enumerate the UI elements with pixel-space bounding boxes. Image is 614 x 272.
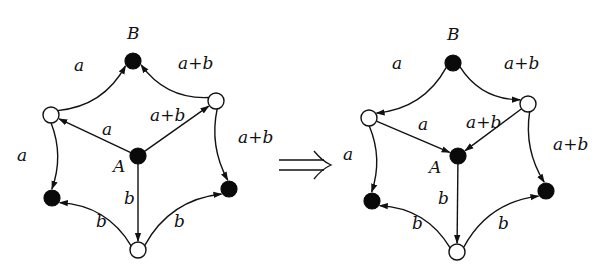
edge-label: a [343,144,353,164]
edge-label: a+b [466,112,501,132]
edge-ul-to-a [376,121,449,152]
edge-label: b [412,213,423,233]
node-ur-open [520,96,536,112]
graph-after: aa+baa+baa+bbbbBA [343,24,588,260]
edge-ul-to-ll [51,123,58,189]
edge-a-to-bot [457,164,458,243]
edge-ul-to-b [58,66,126,111]
edge-label: b [124,188,135,208]
edge-label: a+b [553,134,588,154]
edge-b-to-ul [377,67,447,113]
node-b-filled [125,53,141,69]
node-label-a: A [427,157,441,177]
edge-a-to-ul [59,119,131,153]
edge-ul-to-ll [369,126,376,192]
edge-label: a [102,119,112,139]
node-ul-open [361,110,377,126]
node-label-a: A [111,156,125,176]
edge-label: b [438,188,449,208]
node-lr-filled [538,183,554,199]
node-label-b: B [126,23,140,43]
implies-arrow [279,151,331,179]
edge-label: a [392,53,402,73]
edge-label: b [96,211,107,231]
node-ul-open [43,107,59,123]
node-lr-filled [221,181,237,197]
edge-label: a+b [238,127,273,147]
node-label-b: B [446,24,460,44]
edge-label: b [174,211,185,231]
edge-label: b [498,213,509,233]
edge-label: a+b [178,53,213,73]
edge-label: a [74,55,84,75]
edge-label: a [418,114,428,134]
edge-label: a [17,145,27,165]
node-a-filled [130,148,146,164]
node-bot-open [130,242,146,258]
node-ur-open [208,93,224,109]
edge-label: a+b [504,53,539,73]
node-ll-filled [364,193,380,209]
node-bot-open [449,244,465,260]
node-b-filled [445,55,461,71]
graph-transformation-figure: aa+baa+baa+bbbbBA aa+baa+baa+bbbbBA [0,0,614,272]
edge-ur-to-lr [215,109,228,180]
edge-label: a+b [150,105,185,125]
edge-ur-to-lr [528,112,544,182]
graph-before: aa+baa+baa+bbbbBA [17,23,273,258]
node-a-filled [450,148,466,164]
node-ll-filled [44,190,60,206]
